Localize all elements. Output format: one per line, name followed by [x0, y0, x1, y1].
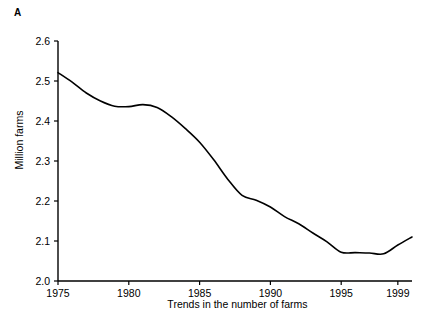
y-tick-label: 2.6 — [35, 35, 50, 47]
x-tick-label: 1995 — [330, 287, 354, 299]
y-tick-label-group: 2.02.12.22.32.42.52.6 — [35, 35, 50, 287]
y-tick-label: 2.4 — [35, 115, 50, 127]
x-tick-label: 1975 — [46, 287, 70, 299]
y-tick-label: 2.2 — [35, 195, 50, 207]
x-tick-label-group: 197519801985199019951999 — [46, 287, 409, 299]
x-tick-label: 1980 — [117, 287, 141, 299]
figure-panel-a: A Million farms Trends in the number of … — [0, 0, 433, 319]
x-tick-label: 1990 — [259, 287, 283, 299]
data-series-line — [58, 73, 412, 255]
y-tick-label: 2.3 — [35, 155, 50, 167]
line-chart-plot: 2.02.12.22.32.42.52.6 197519801985199019… — [0, 0, 433, 319]
y-tick-label: 2.5 — [35, 75, 50, 87]
y-tick-label: 2.0 — [35, 275, 50, 287]
y-tick-label: 2.1 — [35, 235, 50, 247]
x-tick-label: 1999 — [386, 287, 410, 299]
x-tick-label: 1985 — [188, 287, 212, 299]
